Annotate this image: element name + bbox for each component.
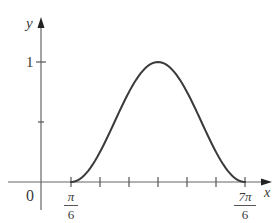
fraction-numerator: π xyxy=(64,190,78,206)
fraction-denominator: 6 xyxy=(234,206,256,221)
x-axis-label: x xyxy=(264,186,270,200)
fraction-numerator: 7π xyxy=(234,190,256,206)
y-axis-label: y xyxy=(26,16,33,31)
y-tick-label-1: 1 xyxy=(26,55,34,70)
y-axis-arrow-icon xyxy=(38,17,45,28)
fraction-denominator: 6 xyxy=(64,206,78,221)
origin-label: 0 xyxy=(26,188,34,204)
chart-canvas xyxy=(0,0,272,223)
x-tick-label-pi-over-6: π 6 xyxy=(64,190,78,221)
function-curve xyxy=(71,62,245,182)
x-tick-label-7pi-over-6: 7π 6 xyxy=(234,190,256,221)
